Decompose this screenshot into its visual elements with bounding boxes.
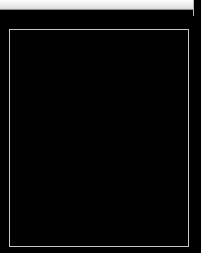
image-canvas-frame[interactable] [9, 29, 189, 247]
chrome-right-edge [193, 0, 194, 16]
toolbar-strip[interactable] [0, 0, 193, 10]
image-canvas[interactable] [10, 30, 188, 246]
bottom-margin [0, 247, 201, 253]
viewer-window [0, 0, 201, 253]
toolbar-right-cap [193, 0, 201, 10]
